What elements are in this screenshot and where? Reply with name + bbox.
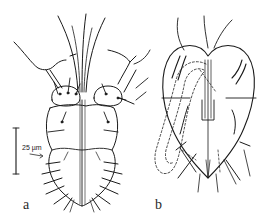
panel-a-drawing xyxy=(14,14,136,212)
scale-bar-label: 25 µm xyxy=(22,144,42,151)
panel-b-drawing xyxy=(134,16,256,192)
line-drawing xyxy=(0,0,271,223)
panel-label-b: b xyxy=(155,198,162,212)
scale-bar xyxy=(13,128,43,174)
panel-label-a: a xyxy=(23,198,29,212)
specimen-figure: 25 µm a b xyxy=(0,0,271,223)
